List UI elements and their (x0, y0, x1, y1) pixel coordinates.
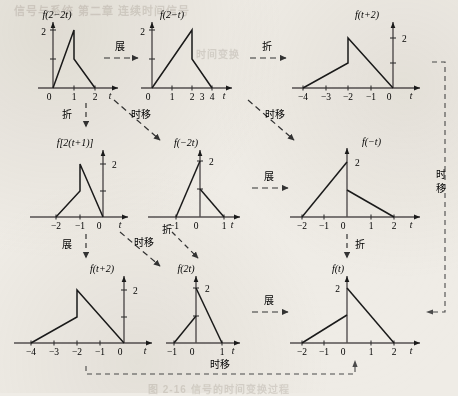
panel-2-title: f(2−t) (160, 9, 185, 21)
panel-7-xtick-1: −3 (49, 347, 59, 357)
arrow-a1-label: 展 (115, 41, 125, 52)
arrow-a8-label: 时移 (134, 236, 154, 248)
panel-7-ylabel: 2 (133, 286, 138, 296)
panel-5-ylabel: 2 (209, 157, 214, 167)
panel-5-title: f(−2t) (174, 137, 199, 149)
panel-4-title: f[2(t+1)] (57, 137, 94, 149)
arrow-fold-col3: 折 (347, 234, 365, 258)
panel-8-xtick-1: 0 (190, 347, 195, 357)
panel-8-xtick-0: −1 (167, 347, 177, 357)
panel-3-xtick-1: −3 (321, 92, 331, 102)
panel-7-xtick-0: −4 (26, 347, 36, 357)
arrow-timeshift-p2-p6: 时移 (248, 100, 294, 140)
panel-f-t-plus-2-top: 2 −4 −3 −2 −1 0 t f(t+2) (292, 9, 420, 102)
arrow-timeshift-p4-p8: 时移 (120, 232, 160, 266)
arrow-fold-row1: 折 (250, 40, 286, 58)
panel-9-xtick-0: −2 (297, 347, 307, 357)
panel-9-xtick-1: −1 (319, 347, 329, 357)
panel-6-title: f(−t) (362, 136, 382, 148)
panel-2-xtick-2: 2 (190, 92, 195, 102)
panel-9-axis-label: t (410, 346, 413, 356)
arrow-timeshift-p1-p5: 时移 (114, 100, 160, 140)
timeshift-right-char-1: 时 (436, 169, 446, 180)
panel-3-title: f(t+2) (355, 9, 380, 21)
panel-2-xtick-1: 1 (170, 92, 175, 102)
panel-7-title: f(t+2) (90, 263, 115, 275)
panel-6-xtick-1: −1 (319, 221, 329, 231)
arrow-fold-p5-p8: 折 (162, 223, 198, 258)
arrow-a2-label: 折 (262, 40, 272, 52)
panel-4-xtick-2: 0 (97, 221, 102, 231)
panel-1-xtick-0: 0 (47, 92, 52, 102)
panel-6-xtick-2: 0 (341, 221, 346, 231)
arrow-a12-label: 时移 (210, 358, 230, 370)
panel-3-xtick-4: 0 (387, 92, 392, 102)
panel-7-xtick-4: 0 (118, 347, 123, 357)
panel-4-xtick-1: −1 (75, 221, 85, 231)
arrow-a11-label: 展 (264, 295, 274, 306)
panel-9-xtick-2: 0 (341, 347, 346, 357)
panel-3-xtick-0: −4 (298, 92, 308, 102)
panel-8-title: f(2t) (177, 263, 195, 275)
panel-7-xtick-3: −1 (95, 347, 105, 357)
arrow-expand-row3: 展 (252, 295, 288, 312)
panel-4-axis-label: t (119, 220, 122, 230)
panel-3-ylabel: 2 (402, 34, 407, 44)
arrow-expand-row2: 展 (252, 171, 288, 188)
panel-2-xtick-0: 0 (146, 92, 151, 102)
panel-f-2t: 2 −1 0 1 t f(2t) (166, 263, 240, 357)
panel-f-minus-2t: 2 −1 0 1 t f(−2t) (148, 137, 240, 231)
panel-6-ylabel: 2 (355, 158, 360, 168)
panel-4-ylabel: 2 (112, 160, 117, 170)
arrow-a4-label: 时移 (131, 108, 151, 120)
panel-f-t: 2 −2 −1 0 1 2 t f(t) (290, 263, 420, 357)
panel-2-xtick-4: 4 (210, 92, 215, 102)
panel-2-axis-label: t (223, 91, 226, 101)
panel-2-ylabel: 2 (140, 27, 145, 37)
arrow-a7-label: 展 (62, 239, 72, 250)
arrow-fold-col1-top: 折 (62, 103, 86, 127)
arrow-a10-label: 折 (355, 238, 365, 250)
arrow-expand-col1-bottom: 展 (62, 234, 86, 258)
panel-f-minus-t: 2 −2 −1 0 1 2 t f(−t) (290, 136, 420, 231)
panel-3-xtick-3: −1 (366, 92, 376, 102)
panel-f-t-plus-2-bottom: 2 −4 −3 −2 −1 0 t f(t+2) (14, 263, 152, 357)
panel-9-xtick-4: 2 (392, 347, 397, 357)
panel-8-xtick-2: 1 (220, 347, 225, 357)
panel-f-2-t-plus-1: 2 −2 −1 0 t f[2(t+1)] (30, 137, 128, 231)
panel-6-xtick-4: 2 (392, 221, 397, 231)
panel-6-xtick-3: 1 (369, 221, 374, 231)
panel-5-xtick-1: 0 (194, 221, 199, 231)
arrow-a6-label: 展 (264, 171, 274, 182)
panel-1-axis-label: t (109, 91, 112, 101)
panel-f-2-minus-t: 2 0 1 2 3 4 t f(2−t) (140, 9, 232, 102)
panel-2-xtick-3: 3 (200, 92, 205, 102)
timeshift-right-char-2: 移 (436, 182, 446, 194)
panel-5-axis-label: t (231, 220, 234, 230)
arrow-a3-label: 折 (62, 108, 72, 120)
panel-8-ylabel: 2 (205, 284, 210, 294)
panel-9-xtick-3: 1 (369, 347, 374, 357)
arrow-a5-label: 时移 (265, 108, 285, 120)
arrow-expand-row1: 展 (104, 41, 138, 58)
panel-1-xtick-1: 1 (72, 92, 77, 102)
panel-7-xtick-2: −2 (72, 347, 82, 357)
panel-9-title: f(t) (332, 263, 345, 275)
panel-8-axis-label: t (232, 346, 235, 356)
panel-4-xtick-0: −2 (51, 221, 61, 231)
panel-7-axis-label: t (144, 346, 147, 356)
panel-6-xtick-0: −2 (297, 221, 307, 231)
panel-3-axis-label: t (410, 91, 413, 101)
arrow-a9-label: 折 (162, 223, 172, 235)
panel-1-ylabel: 2 (41, 27, 46, 37)
panel-1-xtick-2: 2 (93, 92, 98, 102)
panel-f-2-minus-2t: 2 0 1 2 t f(2−2t) (38, 9, 118, 102)
panel-1-title: f(2−2t) (43, 9, 73, 21)
arrow-timeshift-bottom-bracket: 时移 (86, 358, 358, 374)
panel-5-xtick-2: 1 (222, 221, 227, 231)
panel-6-axis-label: t (410, 220, 413, 230)
panel-3-xtick-2: −2 (343, 92, 353, 102)
panel-9-ylabel: 2 (335, 284, 340, 294)
